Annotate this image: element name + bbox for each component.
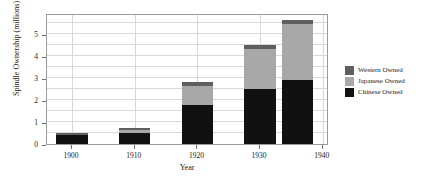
x-tick-label: 1920 (189, 152, 204, 160)
gridline-vertical (72, 15, 73, 144)
x-tick-label: 1930 (252, 152, 267, 160)
legend-swatch-icon (345, 66, 354, 75)
x-tick-mark (322, 145, 323, 149)
y-tick-label: 4 (34, 53, 38, 61)
x-tick-mark (259, 145, 260, 149)
y-axis-title: Spindle Ownership (millions) (12, 0, 21, 119)
legend-swatch-icon (345, 88, 354, 97)
x-tick-label: 1910 (126, 152, 141, 160)
legend-item-western-owned[interactable]: Western Owned (345, 66, 405, 75)
bar-segment-chinese-owned[interactable] (282, 80, 313, 144)
bar-segment-chinese-owned[interactable] (119, 133, 150, 144)
y-tick-label: 2 (34, 97, 38, 105)
x-tick-mark (134, 145, 135, 149)
chart-root: Spindle Ownership (millions) 012345 1900… (0, 0, 426, 182)
legend-label: Western Owned (358, 66, 403, 75)
y-tick-label: 5 (34, 31, 38, 39)
x-axis-title: Year (46, 163, 328, 172)
legend: Western OwnedJapanese OwnedChinese Owned (345, 66, 405, 97)
x-tick-label: 1940 (314, 152, 329, 160)
bar-1936[interactable] (282, 20, 313, 144)
bar-segment-japanese-owned[interactable] (244, 49, 275, 89)
legend-label: Japanese Owned (358, 77, 405, 86)
gridline-vertical (135, 15, 136, 144)
bar-segment-chinese-owned[interactable] (244, 89, 275, 144)
y-axis: Spindle Ownership (millions) 012345 (0, 14, 46, 145)
bar-segment-chinese-owned[interactable] (56, 135, 87, 144)
bar-1910[interactable] (119, 128, 150, 144)
x-tick-mark (196, 145, 197, 149)
bar-segment-chinese-owned[interactable] (182, 105, 213, 144)
x-tick-label: 1900 (64, 152, 79, 160)
bar-segment-japanese-owned[interactable] (282, 24, 313, 80)
bar-1920[interactable] (182, 82, 213, 144)
y-tick-label: 0 (34, 141, 38, 149)
x-tick-mark (71, 145, 72, 149)
legend-item-chinese-owned[interactable]: Chinese Owned (345, 88, 405, 97)
bar-1900[interactable] (56, 133, 87, 144)
bar-1930[interactable] (244, 45, 275, 144)
y-tick-label: 3 (34, 75, 38, 83)
legend-label: Chinese Owned (358, 88, 403, 97)
gridline-vertical (323, 15, 324, 144)
legend-swatch-icon (345, 77, 354, 86)
y-tick-label: 1 (34, 119, 38, 127)
plot-area (46, 14, 328, 145)
legend-item-japanese-owned[interactable]: Japanese Owned (345, 77, 405, 86)
bar-segment-japanese-owned[interactable] (182, 86, 213, 105)
